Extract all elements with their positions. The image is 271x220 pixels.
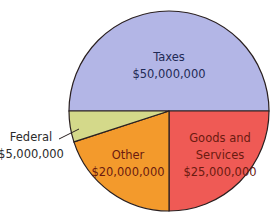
label-other-name: Other <box>112 148 145 162</box>
label-goods-name-line1: Goods and <box>189 131 251 145</box>
label-taxes-name: Taxes <box>152 50 185 64</box>
label-goods-name-line2: Services <box>196 148 245 162</box>
label-taxes-value: $50,000,000 <box>132 67 205 81</box>
label-other-value: $20,000,000 <box>91 165 164 179</box>
label-federal-name: Federal <box>10 130 52 144</box>
label-federal-value: $5,000,000 <box>0 147 64 161</box>
pie-chart: Taxes $50,000,000 Goods and Services $25… <box>0 0 271 220</box>
label-goods-value: $25,000,000 <box>183 165 256 179</box>
